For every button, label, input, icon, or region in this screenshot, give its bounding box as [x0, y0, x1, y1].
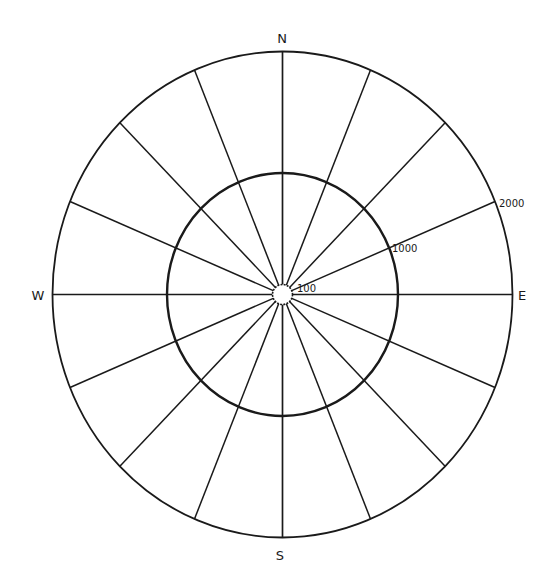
- spoke-line: [286, 70, 370, 285]
- wind-rose-diagram: N E S W 100 1000 2000: [0, 0, 556, 587]
- compass-label-south: S: [276, 548, 284, 563]
- spoke-line: [194, 304, 278, 519]
- ring-label-100: 100: [297, 283, 316, 294]
- spoke-line: [290, 123, 446, 288]
- spoke-line: [290, 302, 446, 467]
- spoke-line: [292, 298, 495, 387]
- ring-label-1000: 1000: [392, 243, 417, 254]
- spoke-line: [194, 70, 278, 285]
- ring-label-2000: 2000: [499, 198, 524, 209]
- compass-label-west: W: [32, 288, 45, 303]
- ring-100: [273, 285, 293, 305]
- spoke-line: [70, 202, 273, 291]
- spoke-line: [70, 298, 273, 387]
- spoke-line: [120, 123, 276, 288]
- spoke-line: [286, 304, 370, 519]
- compass-label-north: N: [277, 31, 287, 46]
- compass-label-east: E: [518, 288, 526, 303]
- spoke-line: [120, 302, 276, 467]
